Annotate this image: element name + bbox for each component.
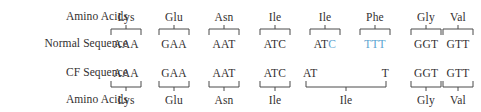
bracket-cf-2 bbox=[208, 81, 240, 92]
bracket-cf-6 bbox=[442, 81, 474, 92]
normal-codon-3: ATC bbox=[253, 37, 297, 51]
cf-amino-acid-4: Ile bbox=[324, 93, 368, 107]
normal-codon-0: AAA bbox=[104, 37, 148, 51]
cf-amino-acid-6: Val bbox=[436, 93, 480, 107]
bracket-normal-4 bbox=[309, 25, 341, 36]
bracket-cf-0 bbox=[110, 81, 142, 92]
bracket-normal-0 bbox=[110, 25, 142, 36]
bracket-cf-4-wide bbox=[305, 81, 387, 92]
normal-amino-acid-1: Glu bbox=[152, 10, 196, 24]
bracket-normal-5 bbox=[359, 25, 391, 36]
cf-amino-acid-1: Glu bbox=[152, 93, 196, 107]
normal-amino-acid-7: Val bbox=[436, 10, 480, 24]
cf-codon-1: GAA bbox=[152, 66, 196, 80]
cf-mutation-diagram: Amino Acids Normal Sequence CF Sequence … bbox=[0, 0, 481, 112]
cf-codon-0: AAA bbox=[104, 66, 148, 80]
normal-amino-acid-2: Asn bbox=[202, 10, 246, 24]
cf-amino-acid-2: Asn bbox=[202, 93, 246, 107]
normal-codon-7: GTT bbox=[436, 37, 480, 51]
cf-codon-6: GTT bbox=[436, 66, 480, 80]
cf-amino-acid-3: Ile bbox=[253, 93, 297, 107]
normal-codon-2: AAT bbox=[202, 37, 246, 51]
normal-codon-4-deleted: C bbox=[328, 38, 336, 50]
normal-amino-acid-5: Phe bbox=[353, 10, 397, 24]
bracket-normal-6 bbox=[410, 25, 442, 36]
cf-codon-4-left: AT bbox=[303, 66, 333, 80]
normal-amino-acid-3: Ile bbox=[253, 10, 297, 24]
bracket-cf-5 bbox=[410, 81, 442, 92]
bracket-normal-1 bbox=[158, 25, 190, 36]
normal-amino-acid-0: Lys bbox=[104, 10, 148, 24]
bracket-cf-1 bbox=[158, 81, 190, 92]
cf-codon-2: AAT bbox=[202, 66, 246, 80]
normal-amino-acid-4: Ile bbox=[303, 10, 347, 24]
normal-codon-1: GAA bbox=[152, 37, 196, 51]
bracket-cf-3 bbox=[259, 81, 291, 92]
cf-amino-acid-0: Lys bbox=[104, 93, 148, 107]
cf-codon-3: ATC bbox=[253, 66, 297, 80]
bracket-normal-7 bbox=[442, 25, 474, 36]
bracket-normal-3 bbox=[259, 25, 291, 36]
normal-codon-4-kept: AT bbox=[314, 38, 328, 50]
cf-codon-4-right: T bbox=[355, 66, 389, 80]
bracket-normal-2 bbox=[208, 25, 240, 36]
normal-codon-4: ATC bbox=[303, 37, 347, 51]
normal-codon-5: TTT bbox=[353, 37, 397, 51]
